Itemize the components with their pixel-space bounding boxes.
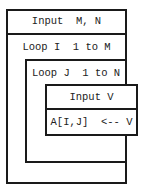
block-assign: A[I,J] <-- V — [45, 116, 138, 128]
block-input-mn: Input M, N — [6, 15, 127, 27]
divider-input-mn — [6, 33, 127, 35]
block-input-v: Input V — [45, 91, 138, 103]
divider-input-v — [45, 108, 138, 110]
block-loop-j: Loop J 1 to N — [25, 67, 127, 79]
block-loop-i: Loop I 1 to M — [6, 41, 127, 53]
